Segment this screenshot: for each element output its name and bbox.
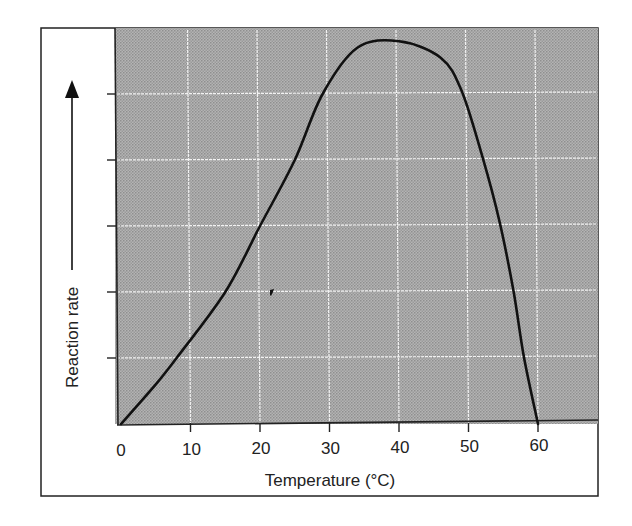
x-tick-label: 10 — [182, 440, 201, 459]
x-axis-title: Temperature (°C) — [265, 471, 396, 490]
x-tick-label: 60 — [530, 436, 549, 455]
reaction-rate-chart: 0102030405060 Reaction rate Temperature … — [0, 0, 632, 526]
x-tick-label: 40 — [391, 438, 410, 457]
x-tick-label: 30 — [321, 439, 340, 458]
x-tick-label: 20 — [252, 439, 271, 458]
y-axis-title: Reaction rate — [63, 287, 82, 388]
x-tick-label: 0 — [116, 441, 125, 460]
x-tick-label: 50 — [460, 437, 479, 456]
